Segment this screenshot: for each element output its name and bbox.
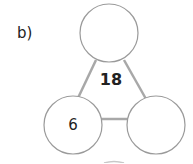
- question-label: b): [17, 24, 32, 42]
- edge-left: [78, 60, 96, 98]
- circle-bottom-right[interactable]: [127, 96, 185, 154]
- next-figure-edge: [104, 162, 124, 164]
- total-value: 18: [96, 70, 126, 89]
- circle-top[interactable]: [80, 4, 138, 62]
- bottom-left-value: 6: [62, 116, 84, 134]
- edge-right: [124, 60, 146, 99]
